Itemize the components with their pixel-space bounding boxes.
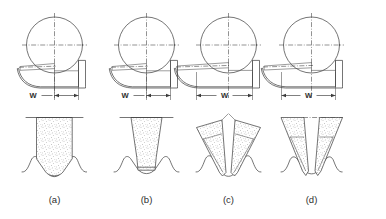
wheel-cross-section [37, 118, 73, 176]
tool-holder-body [261, 60, 342, 88]
wheel-wedge-left [197, 120, 227, 176]
dim-arrow-left [147, 94, 152, 98]
tool-holder-body [109, 60, 177, 88]
caption-a: (a) [49, 194, 61, 205]
panel-b-top-view: W [109, 13, 179, 100]
wheel-wedge-right [231, 120, 261, 176]
panel-c-top-view: W [174, 13, 261, 100]
panel-b-profile-view: (b) [114, 118, 179, 206]
dim-label-w: W [29, 91, 37, 100]
wheel-cross-section [131, 118, 162, 171]
dim-label-w: W [121, 91, 129, 100]
panel-a-top-view: W [17, 13, 87, 100]
dim-arrow-right [248, 94, 253, 98]
technical-diagram-svg: W (a) [0, 0, 386, 219]
wedge-apex-right-line [229, 114, 235, 120]
dim-arrow-right [331, 94, 336, 98]
dim-label-w: W [221, 91, 229, 100]
panel-d: W (d) [261, 13, 344, 205]
panel-c: W (c) [174, 13, 261, 205]
dim-arrow-right [74, 94, 79, 98]
caption-c: (c) [223, 194, 234, 205]
panel-d-top-view: W [261, 13, 344, 100]
panel-b: W (b) [109, 13, 179, 205]
panel-d-profile-view: (d) [281, 118, 343, 206]
dim-label-w: W [305, 91, 313, 100]
wedge-apex-left-line [222, 114, 228, 120]
tool-holder-body [17, 60, 85, 88]
panel-a-profile-view: (a) [22, 118, 87, 206]
dim-arrow-right [166, 94, 171, 98]
workpiece-contour [281, 157, 342, 174]
dim-arrow-left [55, 94, 60, 98]
workpiece-contour [196, 156, 261, 177]
dim-arrow-left [197, 94, 202, 98]
caption-d: (d) [306, 194, 318, 205]
tool-holder-body [174, 60, 259, 88]
caption-b: (b) [141, 194, 153, 205]
dresser-blade [178, 63, 229, 70]
panel-a: W (a) [17, 13, 87, 205]
dim-arrow-left [282, 94, 287, 98]
panel-c-profile-view: (c) [196, 114, 261, 205]
figure-root: W (a) [0, 0, 386, 219]
